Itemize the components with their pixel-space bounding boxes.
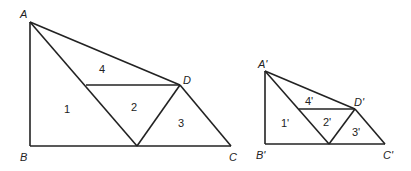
- vertex-label-a: A: [19, 8, 27, 20]
- region-label-2-prime: 2': [323, 116, 331, 128]
- segment-a-e-prime: [265, 71, 329, 144]
- vertex-label-c: C: [229, 151, 237, 163]
- vertex-label-b-prime: B': [256, 149, 266, 161]
- vertex-label-d-prime: D': [354, 96, 365, 108]
- region-label-4-prime: 4': [305, 95, 313, 107]
- segment-e-d: [137, 85, 180, 146]
- large-figure: A B C D 1 2 3 4: [19, 8, 237, 163]
- similar-triangles-diagram: A B C D 1 2 3 4 A' B' C' D' 1' 2' 3' 4': [0, 0, 411, 171]
- segment-a-e: [30, 22, 137, 146]
- region-label-1-prime: 1': [281, 117, 289, 129]
- region-label-2: 2: [131, 101, 137, 113]
- region-label-3: 3: [178, 117, 184, 129]
- vertex-label-d: D: [183, 74, 191, 86]
- vertex-label-c-prime: C': [383, 149, 394, 161]
- region-label-4: 4: [99, 63, 105, 75]
- segment-ad: [30, 22, 180, 85]
- small-figure: A' B' C' D' 1' 2' 3' 4': [256, 58, 394, 161]
- vertex-label-b: B: [20, 151, 27, 163]
- region-label-3-prime: 3': [352, 126, 360, 138]
- vertex-label-a-prime: A': [257, 58, 268, 70]
- region-label-1: 1: [64, 103, 70, 115]
- segment-dc: [180, 85, 231, 146]
